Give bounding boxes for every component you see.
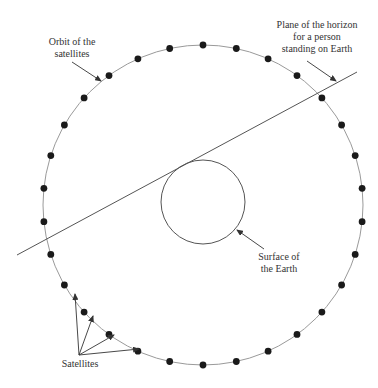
satellite-dot: [200, 362, 207, 369]
orbit-label-line2: satellites: [42, 48, 102, 60]
satellite-dot: [47, 152, 54, 159]
satellite-dot: [265, 55, 272, 62]
earth-label: Surface of the Earth: [244, 251, 314, 275]
satellite-dot: [294, 331, 301, 338]
satellite-dot: [352, 251, 359, 258]
satellites-group: [41, 42, 366, 369]
satellite-dot: [166, 45, 173, 52]
satellite-dot: [294, 72, 301, 79]
orbit-label: Orbit of the satellites: [42, 36, 102, 60]
earth-arrow: [237, 230, 264, 249]
horizon-label-line2: for a person: [262, 31, 372, 43]
horizon-label-line1: Plane of the horizon: [262, 19, 372, 31]
satellite-dot: [319, 309, 326, 316]
horizon-line: [17, 72, 357, 255]
satellite-dot: [61, 122, 68, 129]
satellite-dot: [233, 358, 240, 365]
satellite-dot: [200, 42, 207, 49]
satellite-dot: [338, 122, 345, 129]
satellite-dot: [106, 72, 113, 79]
satellite-dot: [81, 95, 88, 102]
satellite-dot: [166, 358, 173, 365]
satellite-dot: [359, 185, 366, 192]
satellite-dot: [81, 309, 88, 316]
satellite-dot: [47, 251, 54, 258]
orbit-arrow: [72, 62, 101, 81]
horizon-arrow: [307, 61, 336, 81]
earth-circle: [161, 160, 245, 244]
satellite-dot: [265, 348, 272, 355]
satellite-dot: [41, 185, 48, 192]
satellite-dot: [135, 55, 142, 62]
satellite-dot: [233, 45, 240, 52]
orbit-label-line1: Orbit of the: [42, 36, 102, 48]
satellite-arrow-2: [79, 316, 93, 355]
horizon-label: Plane of the horizon for a person standi…: [262, 19, 372, 55]
satellite-dot: [359, 218, 366, 225]
satellites-label-text: Satellites: [52, 358, 108, 370]
satellite-dot: [319, 95, 326, 102]
satellite-dot: [352, 152, 359, 159]
satellite-dot: [41, 218, 48, 225]
satellite-dot: [61, 282, 68, 289]
satellites-label: Satellites: [52, 358, 108, 370]
earth-label-line2: the Earth: [244, 263, 314, 275]
orbit-circle: [43, 45, 363, 365]
horizon-label-line3: standing on Earth: [262, 43, 372, 55]
earth-label-line1: Surface of: [244, 251, 314, 263]
satellite-dot: [338, 282, 345, 289]
